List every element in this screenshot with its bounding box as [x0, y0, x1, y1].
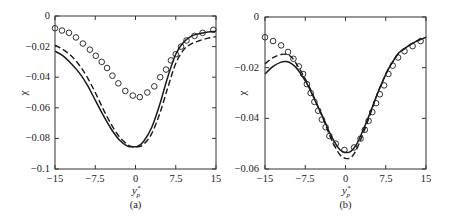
- data-point-circle: [278, 43, 284, 49]
- data-point-circle: [99, 59, 105, 65]
- data-point-circle: [145, 90, 151, 96]
- data-point-circle: [87, 47, 93, 53]
- panel-a-ytick-label: 0: [45, 10, 50, 21]
- panel-a-xtick-label: 0: [133, 173, 138, 184]
- panel-a-xtick-label: −7.5: [85, 173, 104, 184]
- data-point-circle: [163, 67, 169, 73]
- panel-a: 0 −0.02 −0.04 −0.06 −0.08 −0.1 −15 −7.5 …: [17, 10, 221, 211]
- data-point-circle: [285, 49, 291, 55]
- data-point-circle: [151, 84, 157, 90]
- panel-a-xtick-label: 7.5: [169, 173, 182, 184]
- panel-b-ytick-label: −0.04: [235, 112, 260, 123]
- panel-a-xlabel: y*p: [131, 184, 141, 199]
- panel-b-ylabel: χ: [236, 90, 248, 96]
- panel-b-ytick-label: −0.02: [235, 62, 259, 73]
- dashed-curve: [265, 37, 426, 158]
- panel-b-plot-area: [262, 34, 426, 158]
- panel-b-xtick-label: −15: [257, 173, 273, 184]
- panel-a-plot-area: [52, 25, 216, 147]
- data-point-circle: [410, 43, 416, 49]
- panel-b-ytick-label: 0: [254, 11, 259, 22]
- figure: 0 −0.02 −0.04 −0.06 −0.08 −0.1 −15 −7.5 …: [0, 0, 453, 220]
- data-point-circle: [73, 35, 79, 41]
- dashed-curve: [55, 37, 216, 147]
- panel-a-ytick-label: −0.08: [26, 132, 50, 143]
- panel-a-ytick-label: −0.04: [26, 71, 51, 82]
- data-point-circle: [80, 41, 86, 47]
- panel-a-ytick-label: −0.02: [26, 41, 50, 52]
- data-point-circle: [137, 94, 143, 100]
- panel-b-caption: (b): [339, 199, 352, 211]
- data-point-circle: [93, 53, 99, 59]
- data-point-circle: [381, 83, 387, 89]
- data-point-circle: [66, 30, 72, 36]
- panel-b-xlabel: y*p: [341, 184, 351, 199]
- data-point-circle: [270, 38, 276, 44]
- panel-a-ylabel: χ: [17, 90, 29, 96]
- panel-b-xtick-label: 15: [421, 173, 432, 184]
- data-point-circle: [116, 81, 122, 87]
- panel-a-xtick-label: −15: [47, 173, 63, 184]
- data-point-circle: [59, 28, 65, 34]
- panel-a-caption: (a): [130, 199, 142, 211]
- solid-curve: [55, 31, 216, 147]
- panel-b-frame: [265, 17, 426, 169]
- data-point-circle: [123, 88, 129, 94]
- panel-b-xtick-label: −7.5: [295, 173, 314, 184]
- panel-a-ytick-label: −0.06: [26, 102, 50, 113]
- panel-b-ytick-label: −0.06: [235, 163, 259, 174]
- panel-b: 0 −0.02 −0.04 −0.06 −15 −7.5 0 7.5 15 χ …: [235, 11, 432, 211]
- panel-b-xtick-label: 7.5: [379, 173, 392, 184]
- panel-a-xtick-label: 15: [211, 173, 222, 184]
- panel-b-xtick-label: 0: [343, 173, 348, 184]
- data-point-circle: [130, 93, 136, 99]
- panel-b-ticks: [265, 17, 426, 169]
- data-point-circle: [157, 74, 163, 80]
- data-point-circle: [104, 65, 110, 71]
- data-point-circle: [110, 73, 116, 79]
